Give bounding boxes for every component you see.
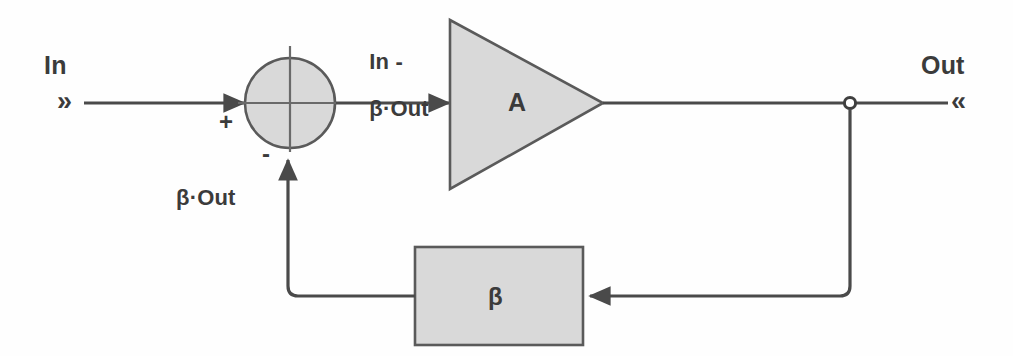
summing-junction-minus-sign: - (262, 141, 270, 167)
diagram-canvas (0, 0, 1013, 356)
feedback-block-label: β (488, 284, 503, 310)
feedback-path-left (288, 160, 415, 296)
feedback-signal-label: β·Out (176, 186, 236, 210)
error-signal-label-line1: In - (369, 49, 403, 74)
input-label: In (44, 52, 67, 79)
feedback-amplifier-diagram: » In + - In - β·Out A β β·Out Out « (0, 0, 1013, 356)
feedback-path-right (590, 109, 850, 296)
summing-junction-plus-sign: + (219, 109, 233, 135)
output-label: Out (921, 52, 965, 79)
error-signal-label: In - β·Out (344, 26, 429, 145)
amplifier-label: A (508, 89, 526, 116)
output-branch-node (844, 97, 855, 108)
error-signal-label-line2: β·Out (369, 96, 429, 121)
amplifier-triangle (450, 20, 603, 189)
output-port-marker-icon: « (951, 86, 966, 117)
input-port-marker-icon: » (57, 86, 72, 117)
